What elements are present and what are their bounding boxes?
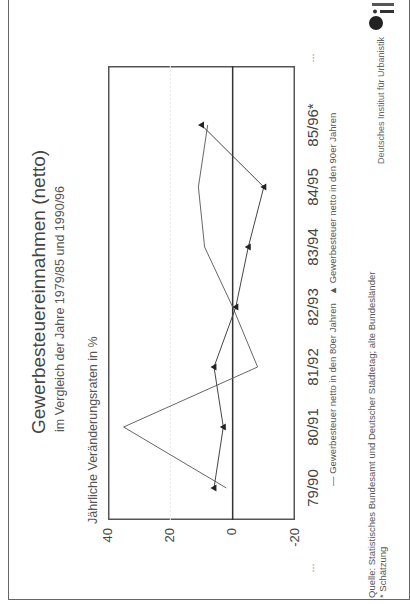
- x-tick-80-91: 80/91: [304, 408, 321, 446]
- chart-title: Gewerbesteuereinnahmen (netto): [28, 150, 50, 434]
- y-tick-40: 40: [100, 528, 115, 556]
- source-note: Quelle: Statistisches Bundesamt und Deut…: [366, 272, 377, 598]
- plot-area: [108, 66, 295, 520]
- x-tick-83-94: 83/94: [304, 228, 321, 266]
- legend: — Gewerbesteuer netto in den 80er Jahren…: [327, 113, 338, 486]
- ellipsis-right: ...: [304, 53, 316, 62]
- credit-text: Deutsches Institut für Urbanistik: [376, 37, 386, 164]
- x-tick-84-95: 84/95: [304, 168, 321, 206]
- legend-90s: ▲ Gewerbesteuer netto in den 90er Jahren: [327, 113, 338, 296]
- legend-80s: — Gewerbesteuer netto in den 80er Jahren: [327, 303, 338, 486]
- ellipsis-left: ...: [304, 563, 316, 572]
- triangle-marker-icon: [210, 364, 216, 371]
- y-tick-20: 20: [162, 528, 177, 556]
- triangle-marker-icon: [210, 485, 216, 492]
- x-tick-82-93: 82/93: [304, 288, 321, 326]
- y-axis-label: Jährliche Veränderungsraten in %: [86, 336, 100, 524]
- y-tick-minus-20: -20: [287, 528, 302, 556]
- x-tick-79-90: 79/90: [304, 469, 321, 507]
- x-tick-81-92: 81/92: [304, 348, 321, 386]
- line-chart: [108, 66, 295, 520]
- difu-logo-icon: [368, 0, 398, 32]
- footnote: * Schätzung: [377, 547, 388, 598]
- y-tick-0: 0: [224, 528, 239, 556]
- x-tick-85-96: 85/96*: [304, 103, 321, 146]
- triangle-marker-icon: [198, 122, 204, 129]
- chart-subtitle: im Vergleich der Jahre 1979/85 und 1990/…: [53, 186, 67, 432]
